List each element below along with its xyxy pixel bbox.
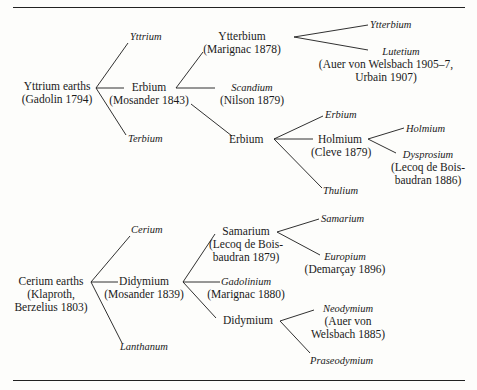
leaf-praseodymium: Praseodymium — [310, 354, 373, 367]
node-samarium: Samarium (Lecoq de Bois- baudran 1879) — [204, 225, 288, 264]
leaf-ytterbium: Ytterbium — [370, 18, 411, 31]
node-neodymium: Neodymium (Auer von Welsbach 1885) — [306, 302, 390, 341]
leaf-lanthanum: Lanthanum — [120, 340, 168, 353]
leaf-erbium: Erbium — [325, 108, 357, 121]
node-yttrium-earths: Yttrium earths (Gadolin 1794) — [17, 80, 97, 106]
node-erbium-2: Erbium — [229, 133, 264, 146]
leaf-cerium: Cerium — [131, 223, 163, 236]
node-erbium-mosander: Erbium (Mosander 1843) — [104, 81, 194, 107]
node-cerium-earths: Cerium earths (Klaproth, Berzelius 1803) — [12, 275, 90, 314]
node-didymium-mosander: Didymium (Mosander 1839) — [102, 275, 186, 301]
node-europium: Europium (Demarçay 1896) — [295, 250, 395, 276]
node-didymium-2: Didymium — [223, 314, 273, 327]
leaf-holmium: Holmium — [406, 122, 445, 135]
leaf-thulium: Thulium — [323, 184, 358, 197]
leaf-yttrium: Yttrium — [130, 30, 162, 43]
node-scandium: Scandium (Nilson 1879) — [214, 81, 290, 107]
node-dysprosium: Dysprosium (Lecoq de Bois- baudran 1886) — [385, 148, 471, 187]
node-ytterbium-marignac: Ytterbium (Marignac 1878) — [197, 30, 287, 56]
leaf-terbium: Terbium — [128, 132, 163, 145]
node-lutetium: Lutetium (Auer von Welsbach 1905–7, Urba… — [306, 45, 466, 84]
leaf-samarium: Samarium — [321, 212, 364, 225]
node-gadolinium: Gadolinium (Marignac 1880) — [204, 275, 288, 301]
node-holmium: Holmium (Cleve 1879) — [311, 133, 369, 159]
